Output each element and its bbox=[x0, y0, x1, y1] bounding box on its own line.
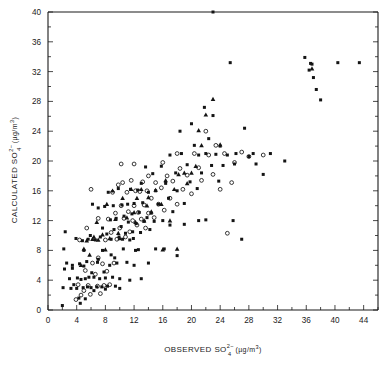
data-point-square bbox=[87, 276, 90, 279]
data-point-square bbox=[89, 234, 92, 237]
data-point-square bbox=[183, 202, 186, 205]
data-point-square bbox=[222, 164, 225, 167]
data-point-square bbox=[108, 264, 111, 267]
data-point-circle bbox=[178, 167, 182, 171]
x-tick-label: 0 bbox=[46, 316, 51, 325]
x-tick-label: 40 bbox=[330, 316, 340, 325]
data-point-square bbox=[234, 152, 237, 155]
data-point-triangle bbox=[204, 112, 209, 116]
data-point-square bbox=[71, 267, 74, 270]
data-point-circle bbox=[175, 202, 179, 206]
data-point-square bbox=[61, 304, 64, 307]
data-point-circle bbox=[230, 181, 234, 185]
data-point-circle bbox=[223, 152, 227, 156]
data-point-square bbox=[91, 203, 94, 206]
data-point-circle bbox=[218, 187, 222, 191]
data-point-square bbox=[96, 261, 99, 264]
x-axis-unit-close: ) bbox=[259, 346, 262, 354]
data-point-square bbox=[90, 271, 93, 274]
data-point-square bbox=[232, 219, 235, 222]
data-point-square bbox=[72, 283, 75, 286]
data-point-square bbox=[137, 248, 140, 251]
y-axis-ticks bbox=[48, 12, 378, 310]
data-point-square bbox=[126, 203, 129, 206]
data-point-square bbox=[336, 61, 339, 64]
data-point-circle bbox=[116, 183, 120, 187]
data-point-square bbox=[180, 152, 183, 155]
data-point-circle bbox=[126, 210, 130, 214]
data-point-circle bbox=[93, 272, 97, 276]
data-point-circle bbox=[82, 289, 86, 293]
data-point-square bbox=[101, 227, 104, 230]
data-point-square bbox=[303, 56, 306, 59]
data-point-circle bbox=[89, 187, 93, 191]
data-point-circle bbox=[131, 219, 135, 223]
data-point-circle bbox=[125, 190, 129, 194]
data-point-triangle bbox=[100, 232, 105, 236]
data-point-square bbox=[104, 288, 107, 291]
y-tick-label: 0 bbox=[36, 306, 41, 315]
data-point-circle bbox=[261, 153, 265, 157]
y-axis-title: CALCULATED SO2−4(µg/m3) bbox=[8, 117, 21, 223]
data-point-square bbox=[122, 247, 125, 250]
data-point-square bbox=[212, 114, 215, 117]
data-point-circle bbox=[211, 173, 215, 177]
data-point-square bbox=[153, 220, 156, 223]
data-point-square bbox=[64, 230, 67, 233]
x-tick-label: 44 bbox=[359, 316, 369, 325]
data-point-square bbox=[146, 216, 149, 219]
data-point-square bbox=[112, 204, 115, 207]
data-point-circle bbox=[119, 162, 123, 166]
data-point-square bbox=[65, 262, 68, 265]
data-point-square bbox=[113, 228, 116, 231]
y-tick-label: 28 bbox=[32, 97, 42, 106]
x-tick-label: 28 bbox=[244, 316, 254, 325]
y-axis-title-superscript: 2− bbox=[8, 145, 14, 152]
data-point-square bbox=[80, 278, 83, 281]
data-point-square bbox=[210, 164, 213, 167]
data-point-circle bbox=[91, 261, 95, 265]
data-point-circle bbox=[101, 262, 105, 266]
data-point-circle bbox=[83, 269, 87, 273]
data-point-triangle bbox=[153, 188, 158, 192]
data-point-circle bbox=[162, 208, 166, 212]
data-point-circle bbox=[147, 174, 151, 178]
x-tick-label: 36 bbox=[302, 316, 312, 325]
series-filled-square bbox=[61, 11, 361, 308]
data-point-triangle bbox=[182, 171, 187, 175]
data-point-square bbox=[79, 302, 82, 305]
data-point-triangle bbox=[163, 178, 168, 182]
data-point-square bbox=[97, 206, 100, 209]
data-point-square bbox=[207, 137, 210, 140]
data-point-triangle bbox=[172, 187, 177, 191]
data-point-square bbox=[111, 276, 114, 279]
data-point-square bbox=[189, 180, 192, 183]
data-point-square bbox=[255, 162, 258, 165]
data-point-triangle bbox=[110, 188, 115, 192]
data-point-square bbox=[203, 106, 206, 109]
data-point-square bbox=[160, 165, 163, 168]
data-point-circle bbox=[171, 179, 175, 183]
data-point-square bbox=[133, 264, 136, 267]
data-point-square bbox=[262, 173, 265, 176]
data-point-square bbox=[200, 171, 203, 174]
x-axis-unit-open: (µg/m bbox=[235, 346, 255, 354]
data-point-square bbox=[85, 260, 88, 263]
data-point-circle bbox=[200, 178, 204, 182]
data-point-square bbox=[171, 210, 174, 213]
x-axis-title-subscript: 4 bbox=[228, 351, 232, 357]
y-tick-label: 24 bbox=[32, 127, 42, 136]
data-point-square bbox=[62, 286, 65, 289]
y-axis-title-subscript: 4 bbox=[16, 147, 22, 151]
data-point-square bbox=[124, 232, 127, 235]
data-point-circle bbox=[190, 192, 194, 196]
data-series-layer bbox=[61, 11, 361, 308]
data-point-circle bbox=[139, 217, 143, 221]
data-point-square bbox=[147, 262, 150, 265]
x-axis-title-main: OBSERVED SO bbox=[164, 345, 227, 354]
data-point-square bbox=[75, 287, 78, 290]
data-point-square bbox=[312, 76, 315, 79]
y-axis-title-main: CALCULATED SO bbox=[10, 152, 19, 223]
x-tick-label: 16 bbox=[158, 316, 168, 325]
data-point-triangle bbox=[168, 218, 173, 222]
